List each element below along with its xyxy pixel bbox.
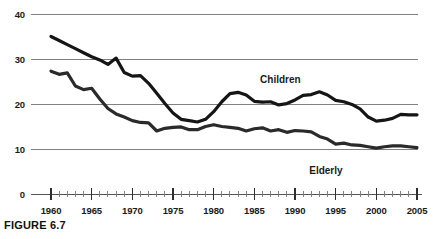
y-tick-label: 40	[0, 9, 25, 20]
x-axis	[31, 188, 422, 200]
series-line-children	[51, 37, 417, 123]
x-tick-label: 1980	[203, 205, 224, 216]
chart-svg	[0, 0, 440, 212]
figure-container: 010203040 196019651970197519801985199019…	[0, 0, 440, 239]
x-tick-label: 2005	[407, 205, 428, 216]
y-tick-label: 20	[0, 99, 25, 110]
x-tick-label: 1985	[244, 205, 265, 216]
x-tick-label: 1990	[285, 205, 306, 216]
x-tick-label: 1995	[325, 205, 346, 216]
x-tick-label: 1970	[122, 205, 143, 216]
data-series	[51, 37, 417, 149]
gridlines	[31, 14, 418, 149]
series-annotation-elderly: Elderly	[309, 164, 342, 175]
x-tick-label: 1960	[41, 205, 62, 216]
y-tick-label: 0	[0, 189, 25, 200]
x-tick-label: 1965	[81, 205, 102, 216]
y-tick-label: 10	[0, 144, 25, 155]
chart-plot-area: 010203040 196019651970197519801985199019…	[0, 0, 440, 212]
x-tick-label: 2000	[366, 205, 387, 216]
y-tick-label: 30	[0, 54, 25, 65]
x-tick-label: 1975	[163, 205, 184, 216]
figure-caption: FIGURE 6.7	[4, 219, 66, 231]
series-annotation-children: Children	[260, 73, 301, 84]
